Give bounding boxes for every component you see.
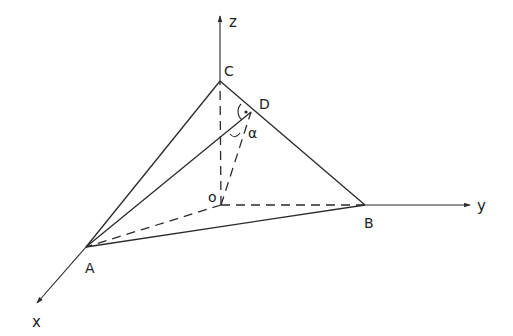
x-axis [37, 247, 86, 303]
angle-alpha-label: α [248, 125, 257, 141]
x-axis-label: x [32, 313, 41, 331]
right-angle-dot [244, 110, 247, 113]
edge-AD [86, 112, 251, 247]
point-O-label: o [208, 189, 217, 205]
edge-AB [86, 205, 365, 247]
edge-AC [86, 81, 220, 247]
z-axis-label: z [229, 13, 237, 31]
point-D-label: D [259, 96, 270, 112]
edge-OC [220, 81, 221, 205]
edge-OD [221, 112, 251, 205]
right-angle-mark [238, 104, 242, 120]
point-A-label: A [85, 260, 95, 276]
edge-OA [86, 205, 221, 247]
tetrahedron-diagram: z y x C D o B A α [0, 0, 513, 336]
y-axis-label: y [477, 197, 486, 215]
point-B-label: B [364, 215, 374, 231]
edge-CB [220, 81, 365, 205]
point-C-label: C [224, 63, 234, 79]
angle-alpha-arc [230, 133, 240, 137]
